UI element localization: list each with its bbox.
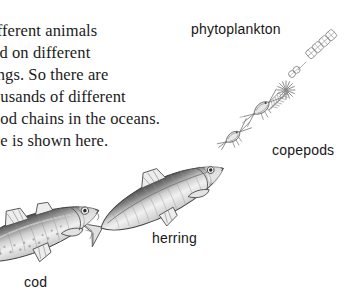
cod-illustration bbox=[0, 196, 128, 282]
textbook-page: ifferent animals ed on different ings. S… bbox=[0, 0, 359, 307]
label-herring: herring bbox=[152, 230, 197, 246]
body-paragraph: ifferent animals ed on different ings. S… bbox=[0, 20, 232, 152]
label-cod: cod bbox=[24, 274, 47, 290]
label-phytoplankton: phytoplankton bbox=[191, 21, 281, 37]
label-copepods: copepods bbox=[272, 142, 334, 158]
